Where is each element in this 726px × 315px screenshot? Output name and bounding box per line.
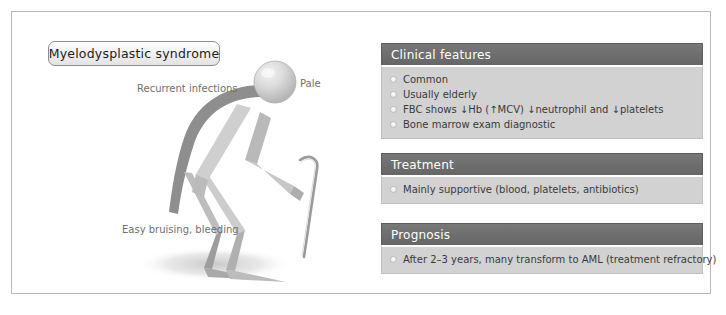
label-easy-bruising: Easy bruising, bleeding [122, 224, 239, 235]
list-item: FBC shows ↓Hb (↑MCV) ↓neutrophil and ↓pl… [390, 103, 694, 116]
panel-prognosis-header: Prognosis [381, 223, 703, 245]
list-item-label: Bone marrow exam diagnostic [403, 118, 555, 131]
panel-prognosis-title: Prognosis [391, 228, 450, 242]
panel-clinical-features-body: Common Usually elderly FBC shows ↓Hb (↑M… [381, 65, 703, 139]
label-pale: Pale [300, 78, 321, 89]
panel-treatment-title: Treatment [391, 158, 454, 172]
head-sphere-icon [254, 61, 296, 103]
upper-arm-icon [245, 112, 271, 164]
bullet-dot-icon [390, 186, 397, 193]
label-recurrent-infections: Recurrent infections [137, 83, 238, 94]
list-item: Common [390, 73, 694, 86]
bullet-dot-icon [390, 106, 397, 113]
patient-illustration: Recurrent infections Pale Easy bruising,… [32, 52, 362, 302]
panel-treatment-body: Mainly supportive (blood, platelets, ant… [381, 175, 703, 204]
list-item: After 2–3 years, many transform to AML (… [390, 253, 694, 266]
panel-treatment: Treatment Mainly supportive (blood, plat… [381, 153, 703, 204]
panel-prognosis-body: After 2–3 years, many transform to AML (… [381, 245, 703, 274]
list-item-label: Common [403, 73, 448, 86]
slide-frame: Myelodysplastic syndrome [11, 11, 711, 294]
cane-highlight-icon [301, 159, 315, 256]
head-highlight-icon [261, 68, 275, 78]
forearm-icon [245, 160, 294, 194]
panel-clinical-features-header: Clinical features [381, 43, 703, 65]
bullet-dot-icon [390, 256, 397, 263]
list-item-label: Usually elderly [403, 88, 477, 101]
list-item: Usually elderly [390, 88, 694, 101]
panel-prognosis: Prognosis After 2–3 years, many transfor… [381, 223, 703, 274]
list-item-label: After 2–3 years, many transform to AML (… [403, 253, 716, 266]
bullet-dot-icon [390, 121, 397, 128]
panel-clinical-features-title: Clinical features [391, 48, 491, 62]
panel-clinical-features: Clinical features Common Usually elderly… [381, 43, 703, 139]
slide-canvas: Myelodysplastic syndrome [0, 0, 726, 315]
list-item: Bone marrow exam diagnostic [390, 118, 694, 131]
panel-treatment-header: Treatment [381, 153, 703, 175]
bullet-dot-icon [390, 91, 397, 98]
bullet-dot-icon [390, 76, 397, 83]
list-item: Mainly supportive (blood, platelets, ant… [390, 183, 694, 196]
list-item-label: FBC shows ↓Hb (↑MCV) ↓neutrophil and ↓pl… [403, 103, 663, 116]
list-item-label: Mainly supportive (blood, platelets, ant… [403, 183, 639, 196]
